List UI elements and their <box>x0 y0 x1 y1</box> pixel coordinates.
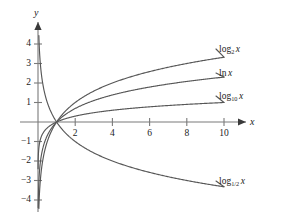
log-base-subscript: 1/2 <box>231 180 239 187</box>
x-tick-label: 8 <box>177 129 197 139</box>
y-tick-label: 1 <box>10 98 31 108</box>
x-tick-label: 10 <box>214 129 234 139</box>
function-name: ln <box>219 68 226 78</box>
y-tick-label: −1 <box>10 137 31 147</box>
curve-label-log10: log10x <box>219 92 243 102</box>
log-base-subscript: 10 <box>231 95 237 102</box>
y-tick-label: 3 <box>10 59 31 69</box>
y-tick-label: −2 <box>10 156 31 166</box>
function-name: log <box>219 44 231 54</box>
variable-x: x <box>236 44 240 54</box>
x-tick-label: 6 <box>140 129 160 139</box>
y-axis-label: y <box>34 8 38 18</box>
x-axis-arrow-icon <box>238 118 246 125</box>
curve-label-loghalf: log1/2x <box>219 177 245 187</box>
y-tick-label: −3 <box>10 176 31 186</box>
curve-label-ln: lnx <box>219 69 232 79</box>
variable-x: x <box>241 176 245 186</box>
function-name: log <box>219 176 231 186</box>
variable-x: x <box>228 68 232 78</box>
y-tick-label: −4 <box>10 195 31 205</box>
x-tick-label: 2 <box>65 129 85 139</box>
curve-label-log2: log2x <box>219 45 240 55</box>
y-tick-label: 2 <box>10 78 31 88</box>
x-tick-label: 4 <box>102 129 122 139</box>
function-name: log <box>219 91 231 101</box>
curve-lnx <box>38 77 224 207</box>
x-axis-label: x <box>250 117 254 127</box>
curve-log12x <box>39 36 224 187</box>
variable-x: x <box>239 91 243 101</box>
y-tick-label: 4 <box>10 39 31 49</box>
logarithm-graph-figure: y x 246810 4321−1−2−3−4 log2x lnx log10x… <box>0 0 286 219</box>
log-base-subscript: 2 <box>231 48 234 55</box>
y-axis-arrow-icon <box>34 22 41 30</box>
